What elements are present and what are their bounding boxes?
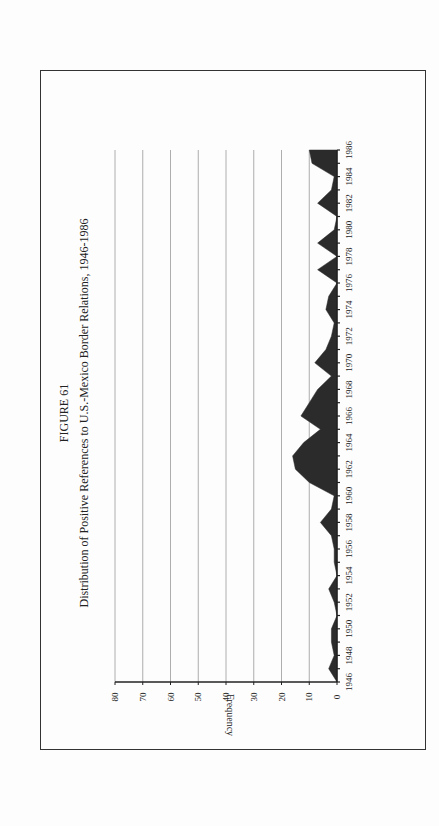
x-tick-label: 1958 <box>344 513 354 532</box>
gridlines <box>115 150 309 682</box>
chart-title: Distribution of Positive References to U… <box>77 219 91 608</box>
x-tick-label: 1972 <box>344 327 354 345</box>
x-tick-label: 1968 <box>344 380 354 399</box>
frequency-area-series <box>293 150 337 682</box>
y-tick-label: 30 <box>249 692 259 702</box>
x-tick-label: 1984 <box>344 167 354 186</box>
x-tick-labels: 1946194819501952195419561958196019621964… <box>344 141 354 692</box>
y-tick-label: 70 <box>138 692 148 702</box>
y-tick-label: 80 <box>110 692 120 702</box>
x-tick-label: 1960 <box>344 486 354 505</box>
x-tick-label: 1952 <box>344 593 354 611</box>
y-tick-label: 50 <box>193 692 203 702</box>
x-tick-label: 1974 <box>344 300 354 319</box>
y-tick-label: 0 <box>332 694 342 699</box>
x-tick-label: 1964 <box>344 433 354 452</box>
x-tick-label: 1982 <box>344 194 354 212</box>
x-tick-label: 1950 <box>344 619 354 638</box>
x-tick-label: 1966 <box>344 407 354 426</box>
y-tick-label: 60 <box>166 692 176 702</box>
x-tick-label: 1956 <box>344 540 354 559</box>
x-tick-label: 1976 <box>344 274 354 293</box>
x-tick-label: 1978 <box>344 247 354 266</box>
area-chart: 01020304050607080 1946194819501952195419… <box>0 0 439 826</box>
x-tick-label: 1980 <box>344 220 354 239</box>
x-tick-label: 1962 <box>344 460 354 478</box>
y-tick-label: 10 <box>304 692 314 702</box>
x-tick-label: 1948 <box>344 646 354 665</box>
y-tick-label: 20 <box>277 692 287 702</box>
x-tick-label: 1946 <box>344 673 354 692</box>
y-axis-label: Frequency <box>225 694 236 736</box>
x-tick-label: 1954 <box>344 566 354 585</box>
figure-label: FIGURE 61 <box>57 384 71 442</box>
x-tick-label: 1970 <box>344 353 354 372</box>
x-tick-label: 1986 <box>344 141 354 160</box>
